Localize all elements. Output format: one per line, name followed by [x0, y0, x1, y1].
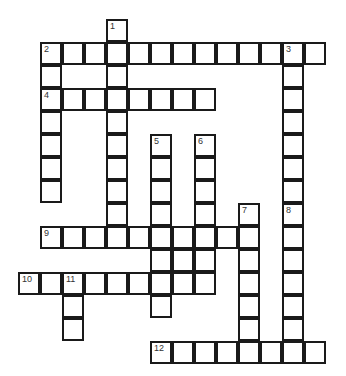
crossword-cell[interactable]	[282, 65, 304, 88]
crossword-cell[interactable]	[62, 88, 84, 111]
crossword-cell[interactable]	[150, 203, 172, 226]
crossword-cell[interactable]	[282, 180, 304, 203]
crossword-cell[interactable]	[40, 272, 62, 295]
crossword-cell[interactable]	[106, 180, 128, 203]
crossword-cell[interactable]: 11	[62, 272, 84, 295]
crossword-cell[interactable]	[84, 226, 106, 249]
crossword-cell[interactable]	[194, 180, 216, 203]
crossword-cell[interactable]: 12	[150, 341, 172, 364]
crossword-cell[interactable]	[150, 272, 172, 295]
crossword-cell[interactable]	[282, 272, 304, 295]
crossword-cell[interactable]	[238, 272, 260, 295]
crossword-cell[interactable]: 4	[40, 88, 62, 111]
crossword-cell[interactable]	[106, 226, 128, 249]
crossword-cell[interactable]	[62, 42, 84, 65]
crossword-cell[interactable]	[194, 249, 216, 272]
crossword-cell[interactable]	[282, 134, 304, 157]
crossword-cell[interactable]	[150, 295, 172, 318]
crossword-cell[interactable]: 3	[282, 42, 304, 65]
crossword-cell[interactable]	[106, 111, 128, 134]
crossword-cell[interactable]	[260, 341, 282, 364]
crossword-cell[interactable]	[216, 42, 238, 65]
crossword-cell[interactable]	[172, 272, 194, 295]
crossword-cell[interactable]	[106, 203, 128, 226]
crossword-cell[interactable]	[282, 157, 304, 180]
crossword-cell[interactable]	[194, 226, 216, 249]
crossword-cell[interactable]	[40, 180, 62, 203]
crossword-cell[interactable]	[304, 341, 326, 364]
crossword-cell[interactable]	[150, 157, 172, 180]
crossword-cell[interactable]	[282, 295, 304, 318]
clue-number: 4	[44, 91, 49, 100]
crossword-cell[interactable]: 7	[238, 203, 260, 226]
crossword-cell[interactable]	[238, 341, 260, 364]
crossword-cell[interactable]	[260, 42, 282, 65]
crossword-cell[interactable]	[128, 88, 150, 111]
crossword-cell[interactable]	[40, 111, 62, 134]
crossword-cell[interactable]: 9	[40, 226, 62, 249]
clue-number: 3	[286, 45, 291, 54]
clue-number: 7	[242, 206, 247, 215]
crossword-cell[interactable]	[62, 226, 84, 249]
crossword-cell[interactable]	[106, 88, 128, 111]
crossword-cell[interactable]	[40, 134, 62, 157]
crossword-cell[interactable]	[172, 341, 194, 364]
crossword-cell[interactable]: 10	[18, 272, 40, 295]
crossword-cell[interactable]	[40, 157, 62, 180]
clue-number: 11	[66, 275, 75, 284]
crossword-cell[interactable]	[194, 203, 216, 226]
crossword-cell[interactable]	[62, 295, 84, 318]
crossword-cell[interactable]	[282, 226, 304, 249]
crossword-cell[interactable]	[172, 226, 194, 249]
crossword-cell[interactable]	[216, 226, 238, 249]
crossword-cell[interactable]: 1	[106, 19, 128, 42]
crossword-cell[interactable]	[282, 318, 304, 341]
crossword-cell[interactable]	[106, 134, 128, 157]
clue-number: 5	[154, 137, 159, 146]
crossword-cell[interactable]: 2	[40, 42, 62, 65]
crossword-cell[interactable]	[128, 42, 150, 65]
crossword-cell[interactable]: 6	[194, 134, 216, 157]
crossword-cell[interactable]: 8	[282, 203, 304, 226]
crossword-cell[interactable]	[216, 341, 238, 364]
crossword-cell[interactable]	[150, 249, 172, 272]
crossword-cell[interactable]	[84, 42, 106, 65]
clue-number: 9	[44, 229, 49, 238]
clue-number: 8	[286, 206, 291, 215]
crossword-cell[interactable]	[282, 111, 304, 134]
crossword-cell[interactable]	[150, 226, 172, 249]
crossword-cell[interactable]	[40, 65, 62, 88]
crossword-cell[interactable]	[194, 341, 216, 364]
crossword-cell[interactable]	[238, 42, 260, 65]
crossword-cell[interactable]	[172, 88, 194, 111]
crossword-cell[interactable]	[106, 272, 128, 295]
crossword-cell[interactable]	[282, 341, 304, 364]
crossword-cell[interactable]	[238, 295, 260, 318]
crossword-cell[interactable]	[194, 272, 216, 295]
crossword-cell[interactable]	[282, 88, 304, 111]
crossword-cell[interactable]	[128, 272, 150, 295]
crossword-cell[interactable]	[150, 180, 172, 203]
crossword-cell[interactable]	[238, 226, 260, 249]
crossword-cell[interactable]	[238, 249, 260, 272]
crossword-cell[interactable]	[282, 249, 304, 272]
crossword-cell[interactable]	[84, 88, 106, 111]
crossword-cell[interactable]	[194, 88, 216, 111]
crossword-cell[interactable]	[150, 88, 172, 111]
crossword-cell[interactable]	[106, 65, 128, 88]
clue-number: 12	[154, 344, 164, 353]
crossword-cell[interactable]: 5	[150, 134, 172, 157]
crossword-cell[interactable]	[150, 42, 172, 65]
clue-number: 1	[110, 22, 115, 31]
crossword-cell[interactable]	[84, 272, 106, 295]
crossword-cell[interactable]	[238, 318, 260, 341]
crossword-cell[interactable]	[194, 157, 216, 180]
crossword-cell[interactable]	[106, 157, 128, 180]
crossword-cell[interactable]	[194, 42, 216, 65]
crossword-cell[interactable]	[106, 42, 128, 65]
crossword-cell[interactable]	[172, 42, 194, 65]
crossword-cell[interactable]	[172, 249, 194, 272]
crossword-cell[interactable]	[304, 42, 326, 65]
crossword-cell[interactable]	[62, 318, 84, 341]
crossword-cell[interactable]	[128, 226, 150, 249]
